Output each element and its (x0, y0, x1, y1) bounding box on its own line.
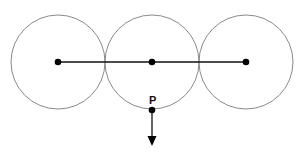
arrow-down-icon (148, 136, 157, 146)
right-center-dot (243, 59, 250, 66)
left-center-dot (55, 59, 62, 66)
middle-center-dot (149, 59, 156, 66)
tangent-circles-diagram: P (0, 0, 302, 156)
point-p-label: P (149, 94, 156, 106)
